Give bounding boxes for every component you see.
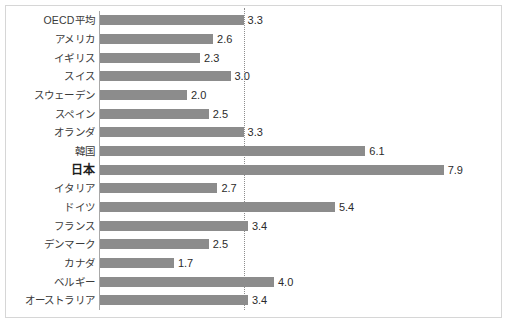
bar-row: ベルギー4.0 xyxy=(0,272,509,291)
bar-track: 2.5 xyxy=(100,239,495,249)
bar-row: ドイツ5.4 xyxy=(0,198,509,217)
category-label: フランス xyxy=(54,220,95,231)
bar-value-label: 4.0 xyxy=(274,276,293,287)
bar-fill xyxy=(100,239,209,249)
category-label: スウェーデン xyxy=(34,90,95,101)
bar-track: 2.5 xyxy=(100,109,495,119)
bar-row: アメリカ2.6 xyxy=(0,30,509,49)
category-label: デンマーク xyxy=(44,239,95,250)
bar-track: 1.7 xyxy=(100,258,495,268)
category-label: イタリア xyxy=(54,183,95,194)
bar-track: 3.3 xyxy=(100,127,495,137)
bar-track: 5.4 xyxy=(100,202,495,212)
bar-value-label: 1.7 xyxy=(174,258,193,269)
category-label: 韓国 xyxy=(75,146,95,157)
bar-track: 3.3 xyxy=(100,15,495,25)
bar-fill xyxy=(100,15,244,25)
category-label: ベルギー xyxy=(54,276,95,287)
bar-value-label: 3.0 xyxy=(231,71,250,82)
bar-rows: OECD平均3.3アメリカ2.6イギリス2.3スイス3.0スウェーデン2.0スペ… xyxy=(0,11,509,310)
bar-track: 6.1 xyxy=(100,146,495,156)
bar-track: 3.4 xyxy=(100,221,495,231)
category-label: OECD平均 xyxy=(43,15,95,26)
category-label: オーストラリア xyxy=(25,295,95,306)
category-label: カナダ xyxy=(64,258,95,269)
bar-value-label: 2.3 xyxy=(200,52,219,63)
bar-value-label: 3.4 xyxy=(248,295,267,306)
category-label: オランダ xyxy=(54,127,95,138)
bar-value-label: 3.3 xyxy=(244,15,263,26)
category-label: イギリス xyxy=(54,52,95,63)
bar-fill xyxy=(100,90,187,100)
bar-row: 韓国6.1 xyxy=(0,142,509,161)
bar-value-label: 2.5 xyxy=(209,239,228,250)
bar-row: スイス3.0 xyxy=(0,67,509,86)
bar-track: 3.4 xyxy=(100,295,495,305)
bar-row: オーストラリア3.4 xyxy=(0,291,509,310)
bar-row: 日本7.9 xyxy=(0,160,509,179)
bar-value-label: 3.3 xyxy=(244,127,263,138)
bar-row: デンマーク2.5 xyxy=(0,235,509,254)
bar-value-label: 3.4 xyxy=(248,220,267,231)
category-label: アメリカ xyxy=(55,34,95,45)
bar-row: イギリス2.3 xyxy=(0,48,509,67)
bar-fill xyxy=(100,277,274,287)
bar-fill xyxy=(100,165,444,175)
bar-row: スウェーデン2.0 xyxy=(0,86,509,105)
oecd-average-reference-line xyxy=(244,8,245,310)
bar-row: オランダ3.3 xyxy=(0,123,509,142)
category-label: 日本 xyxy=(71,164,95,176)
bar-row: OECD平均3.3 xyxy=(0,11,509,30)
bar-value-label: 2.0 xyxy=(187,90,206,101)
bar-track: 2.6 xyxy=(100,34,495,44)
bar-track: 2.7 xyxy=(100,183,495,193)
bar-track: 3.0 xyxy=(100,71,495,81)
bar-value-label: 5.4 xyxy=(335,202,354,213)
bar-fill xyxy=(100,109,209,119)
bar-fill xyxy=(100,71,231,81)
bar-fill xyxy=(100,258,174,268)
bar-track: 4.0 xyxy=(100,277,495,287)
category-label: スペイン xyxy=(55,108,95,119)
bar-row: カナダ1.7 xyxy=(0,254,509,273)
plot-area: OECD平均3.3アメリカ2.6イギリス2.3スイス3.0スウェーデン2.0スペ… xyxy=(0,0,509,332)
chart-figure: OECD平均3.3アメリカ2.6イギリス2.3スイス3.0スウェーデン2.0スペ… xyxy=(0,0,509,332)
bar-fill xyxy=(100,183,217,193)
bar-fill xyxy=(100,53,200,63)
bar-fill xyxy=(100,202,335,212)
category-label: スイス xyxy=(64,71,95,82)
bar-fill xyxy=(100,146,365,156)
bar-row: イタリア2.7 xyxy=(0,179,509,198)
bar-value-label: 2.6 xyxy=(213,34,232,45)
bar-value-label: 2.5 xyxy=(209,108,228,119)
bar-value-label: 6.1 xyxy=(365,146,384,157)
bar-track: 7.9 xyxy=(100,165,495,175)
bar-fill xyxy=(100,295,248,305)
bar-track: 2.3 xyxy=(100,53,495,63)
bar-value-label: 2.7 xyxy=(217,183,236,194)
bar-fill xyxy=(100,221,248,231)
bar-row: スペイン2.5 xyxy=(0,104,509,123)
bar-row: フランス3.4 xyxy=(0,216,509,235)
bar-value-label: 7.9 xyxy=(444,164,463,175)
bar-fill xyxy=(100,127,244,137)
bar-track: 2.0 xyxy=(100,90,495,100)
bar-fill xyxy=(100,34,213,44)
category-label: ドイツ xyxy=(64,202,95,213)
